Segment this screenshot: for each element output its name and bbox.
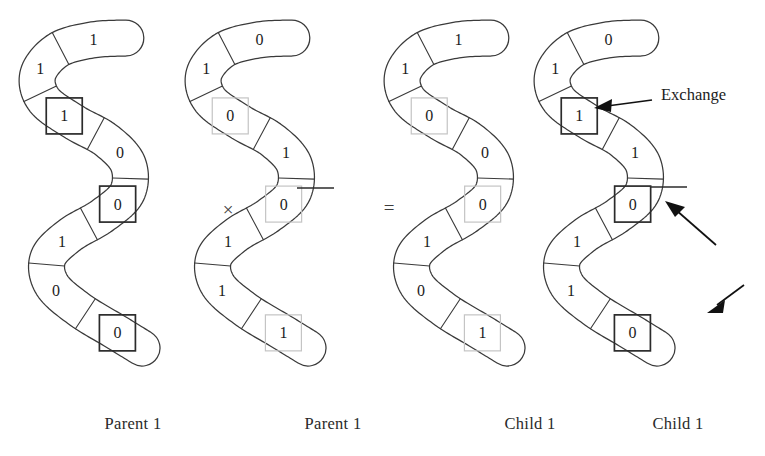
- equals-operator: =: [384, 197, 395, 218]
- gene-value: 0: [479, 196, 487, 213]
- gene-value: 1: [401, 60, 409, 77]
- gene-value: 1: [282, 144, 290, 161]
- gene-value: 0: [425, 107, 433, 124]
- gene-value: 1: [575, 107, 583, 124]
- gene-value: 1: [224, 233, 232, 250]
- exchange-label: Exchange: [661, 85, 726, 104]
- caption-parent-1-b: Parent 1: [305, 414, 362, 433]
- exchange-annotation: Exchange: [594, 85, 726, 113]
- gene-value: 0: [629, 196, 637, 213]
- caption-child-1-b: Child 1: [652, 414, 703, 433]
- gene-value: 1: [573, 233, 581, 250]
- chromosome-child-1-a: 11000101: [384, 20, 525, 366]
- exchange-arrow-middle: [665, 201, 716, 245]
- gene-value: 0: [256, 31, 264, 48]
- times-operator: ×: [223, 199, 234, 220]
- exchange-arrow-bottom-head: [707, 300, 725, 313]
- exchange-arrow-middle-line: [676, 210, 716, 245]
- caption-child-1-a: Child 1: [504, 414, 555, 433]
- crossover-diagram: 11100100010101111100010101110110 × = Exc…: [0, 0, 765, 456]
- gene-value: 1: [36, 60, 44, 77]
- chromosome-parent-1-a: 11100100: [19, 20, 160, 366]
- gene-value: 0: [481, 144, 489, 161]
- gene-value: 0: [417, 282, 425, 299]
- gene-value: 0: [628, 324, 636, 341]
- gene-value: 0: [116, 144, 124, 161]
- gene-value: 0: [226, 107, 234, 124]
- gene-value: 0: [113, 324, 121, 341]
- exchange-arrow-top-line: [607, 100, 652, 106]
- chromosome-group: 11100100010101111100010101110110: [19, 20, 675, 366]
- chromosome-parent-1-b: 01010111: [185, 20, 326, 366]
- gene-value: 1: [631, 144, 639, 161]
- gene-value: 0: [52, 282, 60, 299]
- gene-value: 1: [60, 107, 68, 124]
- gene-value: 1: [567, 282, 575, 299]
- gene-value: 1: [90, 31, 98, 48]
- gene-value: 1: [478, 324, 486, 341]
- exchange-arrow-bottom: [707, 285, 744, 313]
- gene-value: 1: [202, 60, 210, 77]
- gene-value: 0: [114, 196, 122, 213]
- gene-value: 1: [423, 233, 431, 250]
- figure-canvas: 11100100010101111100010101110110 × = Exc…: [0, 0, 765, 456]
- gene-value: 1: [551, 60, 559, 77]
- gene-value: 0: [280, 196, 288, 213]
- caption-parent-1-a: Parent 1: [105, 414, 162, 433]
- gene-value: 1: [58, 233, 66, 250]
- gene-value: 0: [605, 31, 613, 48]
- gene-value: 1: [279, 324, 287, 341]
- chromosome-child-1-b: 01110110: [534, 20, 675, 366]
- gene-value: 1: [455, 31, 463, 48]
- exchange-arrow-bottom-line: [717, 285, 744, 305]
- gene-value: 1: [218, 282, 226, 299]
